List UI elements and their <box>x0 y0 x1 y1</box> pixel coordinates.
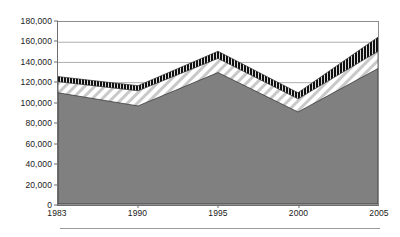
x-axis-tick <box>298 205 299 208</box>
y-axis-label: 100,000 <box>21 98 52 108</box>
y-axis-label: 160,000 <box>21 36 52 46</box>
x-axis-label: 1995 <box>208 208 227 218</box>
footer-rule <box>60 228 380 229</box>
y-axis-tick <box>54 102 58 103</box>
y-axis-tick-labels: 020,00040,00060,00080,000100,000120,0001… <box>0 21 52 205</box>
y-axis-label: 180,000 <box>21 16 52 26</box>
x-axis-tick-labels: 19831990199520002005 <box>0 208 400 224</box>
y-axis-label: 140,000 <box>21 57 52 67</box>
x-axis-tick <box>218 205 219 208</box>
y-axis-tick <box>54 184 58 185</box>
x-axis-label: 2005 <box>369 208 388 218</box>
y-axis-tick <box>54 164 58 165</box>
y-axis-tick <box>54 143 58 144</box>
stacked-area-svg <box>58 22 378 204</box>
y-axis-label: 40,000 <box>25 159 52 169</box>
x-axis-label: 1990 <box>128 208 147 218</box>
y-axis-line <box>57 21 58 206</box>
x-axis-label: 2000 <box>289 208 308 218</box>
plot-shell <box>57 21 379 205</box>
area-chart-figure: 020,00040,00060,00080,000100,000120,0001… <box>0 0 400 237</box>
x-axis-label: 1983 <box>47 208 66 218</box>
y-axis-tick <box>54 123 58 124</box>
plot-area <box>57 21 379 205</box>
x-axis-tick <box>137 205 138 208</box>
y-axis-label: 80,000 <box>25 118 52 128</box>
y-axis-tick <box>54 82 58 83</box>
y-axis-label: 20,000 <box>25 180 52 190</box>
y-axis-label: 120,000 <box>21 77 52 87</box>
y-axis-tick <box>54 61 58 62</box>
y-axis-label: 60,000 <box>25 139 52 149</box>
y-axis-tick <box>54 41 58 42</box>
y-axis-tick <box>54 21 58 22</box>
y-axis-tick <box>54 205 58 206</box>
